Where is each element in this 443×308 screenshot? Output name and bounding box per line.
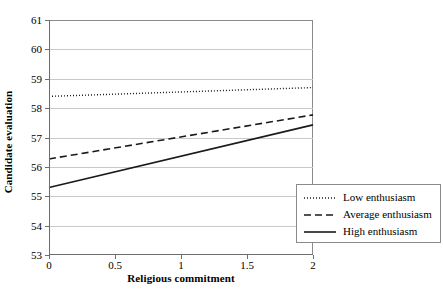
y-tick-label: 59 xyxy=(31,73,42,85)
y-tick-label: 53 xyxy=(31,249,42,261)
y-axis-title: Candidate evaluation xyxy=(0,24,16,260)
y-tick-label: 57 xyxy=(31,132,42,144)
series-lines xyxy=(49,20,313,255)
y-tick-label: 54 xyxy=(31,220,42,232)
legend: Low enthusiasmAverage enthusiasmHigh ent… xyxy=(296,184,441,243)
x-tick-label: 1 xyxy=(178,259,184,271)
x-tick-label: 2 xyxy=(310,259,316,271)
legend-label: Low enthusiasm xyxy=(343,191,415,204)
x-axis-title: Religious commitment xyxy=(49,272,313,284)
legend-swatch-dotted xyxy=(303,192,337,204)
legend-swatch-solid xyxy=(303,226,337,238)
series-line xyxy=(49,115,313,159)
x-tick-label: 0.5 xyxy=(108,259,122,271)
legend-label: High enthusiasm xyxy=(343,225,417,238)
legend-label: Average enthusiasm xyxy=(343,208,432,221)
legend-item: Low enthusiasm xyxy=(303,189,440,206)
y-tick-label: 60 xyxy=(31,43,42,55)
series-line xyxy=(49,125,313,188)
x-tick-label: 1.5 xyxy=(240,259,254,271)
y-tick-label: 61 xyxy=(31,14,42,26)
series-line xyxy=(49,88,313,97)
plot-area: 535455565758596061 00.511.52 xyxy=(49,20,313,255)
legend-item: High enthusiasm xyxy=(303,223,440,240)
y-tick-label: 55 xyxy=(31,190,42,202)
x-axis-line xyxy=(49,254,313,255)
x-tick-label: 0 xyxy=(46,259,52,271)
y-tick-label: 56 xyxy=(31,161,42,173)
chart-figure: Candidate evaluation 535455565758596061 … xyxy=(0,0,443,308)
legend-item: Average enthusiasm xyxy=(303,206,440,223)
y-axis-line xyxy=(49,20,50,255)
y-tick-label: 58 xyxy=(31,102,42,114)
legend-swatch-dashed xyxy=(303,209,337,221)
